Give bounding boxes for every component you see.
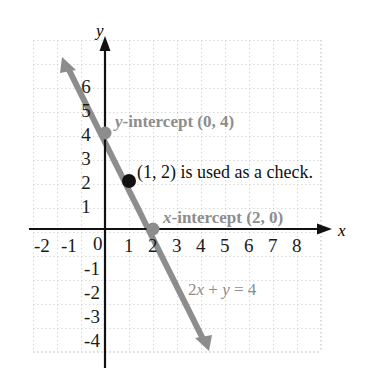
x-tick-8: 8: [292, 235, 302, 256]
y-tick-5: 5: [81, 100, 91, 121]
point-check: [122, 174, 136, 188]
annotation-y-intercept: y-intercept (0, 4): [113, 112, 234, 131]
y-tick-minus1: -1: [84, 258, 100, 279]
x-tick-3: 3: [172, 235, 182, 256]
annotation-x-intercept-var: x: [162, 208, 172, 227]
x-tick-7: 7: [268, 235, 278, 256]
y-tick-minus3: -3: [84, 306, 100, 327]
x-tick-2: 2: [148, 235, 158, 256]
equation-y-var: y: [220, 280, 230, 299]
y-axis-label: y: [94, 21, 104, 40]
x-tick-minus1: -1: [61, 235, 77, 256]
annotation-x-intercept-text: -intercept (2, 0): [172, 208, 284, 227]
equation-rhs: = 4: [230, 280, 257, 299]
x-tick-1: 1: [124, 235, 134, 256]
annotation-y-intercept-text: -intercept (0, 4): [123, 112, 235, 131]
x-tick-6: 6: [244, 235, 254, 256]
graph-figure: y x -2 -1 0 1 2 3 4 5 6 7 8 6 5 4 3 2 1 …: [0, 0, 367, 380]
annotation-x-intercept: x-intercept (2, 0): [162, 208, 283, 227]
annotation-equation: 2x + y = 4: [188, 280, 257, 299]
x-tick-5: 5: [220, 235, 230, 256]
y-tick-6: 6: [81, 76, 91, 97]
x-axis-label: x: [337, 221, 346, 240]
y-tick-minus4: -4: [84, 330, 100, 351]
x-tick-zero: 0: [93, 233, 103, 254]
equation-coefficient: 2: [188, 280, 197, 299]
annotation-check-point: (1, 2) is used as a check.: [137, 162, 313, 183]
y-tick-minus2: -2: [84, 282, 100, 303]
y-tick-1: 1: [81, 196, 91, 217]
point-x-intercept: [147, 223, 160, 236]
x-tick-4: 4: [196, 235, 206, 256]
x-tick-minus2: -2: [34, 235, 50, 256]
equation-plus: +: [204, 280, 222, 299]
point-y-intercept: [99, 127, 112, 140]
y-tick-3: 3: [81, 148, 91, 169]
annotation-y-intercept-var: y: [113, 112, 123, 131]
y-tick-2: 2: [81, 172, 91, 193]
y-tick-4: 4: [81, 124, 91, 145]
coordinate-plane-svg: y x -2 -1 0 1 2 3 4 5 6 7 8 6 5 4 3 2 1 …: [0, 0, 367, 380]
